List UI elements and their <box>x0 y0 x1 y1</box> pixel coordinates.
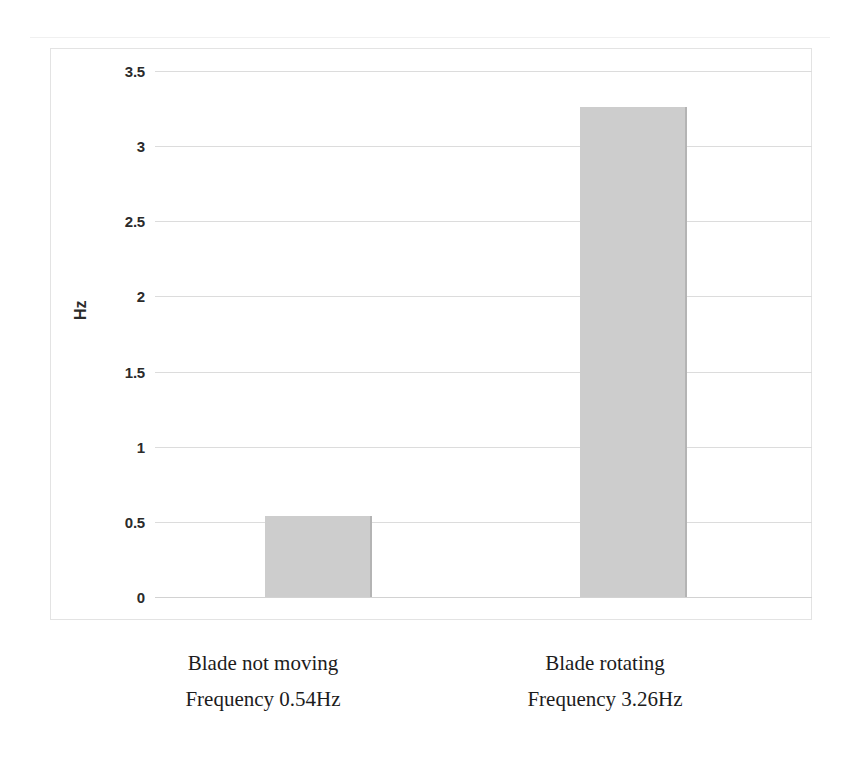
y-axis-title: Hz <box>72 300 90 320</box>
category-label-0-line1: Blade not moving <box>188 651 339 675</box>
category-label-0: Blade not moving Frequency 0.54Hz <box>113 645 413 717</box>
y-axis-tick-1: 1 <box>137 438 145 455</box>
category-label-1-line2: Frequency 3.26Hz <box>455 681 755 717</box>
gridline-2 <box>155 296 812 297</box>
y-axis-tick-2: 2 <box>137 288 145 305</box>
gridline-3 <box>155 146 812 147</box>
y-axis-tick-3.5: 3.5 <box>125 63 145 80</box>
gridline-3.5 <box>155 71 812 72</box>
y-axis-tick-1.5: 1.5 <box>125 363 145 380</box>
gridline-1.5 <box>155 372 812 373</box>
y-axis-tick-2.5: 2.5 <box>125 213 145 230</box>
bar-1 <box>580 107 687 597</box>
y-axis-tick-3: 3 <box>137 138 145 155</box>
bar-chart-figure: 00.511.522.533.5 Hz Blade not moving Fre… <box>0 0 850 764</box>
gridline-0 <box>155 597 812 598</box>
gridline-0.5 <box>155 522 812 523</box>
category-label-1-line1: Blade rotating <box>545 651 665 675</box>
y-axis-tick-0.5: 0.5 <box>125 513 145 530</box>
gridline-2.5 <box>155 221 812 222</box>
plot-area <box>155 71 812 597</box>
y-axis-tick-labels: 00.511.522.533.5 <box>95 71 145 597</box>
category-label-1: Blade rotating Frequency 3.26Hz <box>455 645 755 717</box>
bar-0 <box>265 516 372 597</box>
category-label-0-line2: Frequency 0.54Hz <box>113 681 413 717</box>
y-axis-tick-0: 0 <box>137 589 145 606</box>
gridline-1 <box>155 447 812 448</box>
